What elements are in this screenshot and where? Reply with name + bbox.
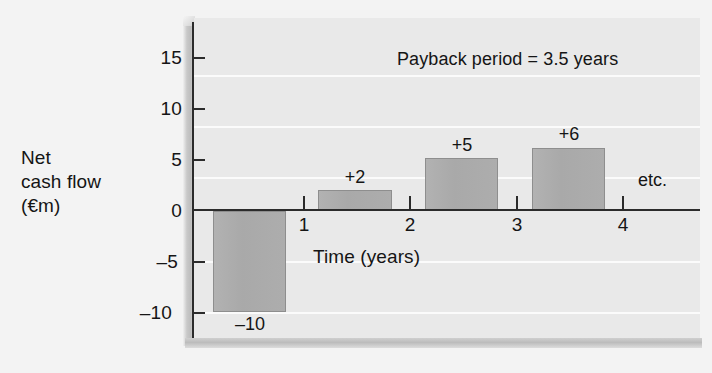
bar-year-4 <box>532 148 605 210</box>
y-tick-minus5 <box>194 261 205 263</box>
x-tick-3 <box>516 196 518 210</box>
x-tick-label-3: 3 <box>502 214 532 236</box>
x-axis-title: Time (years) <box>313 246 420 268</box>
gridline-10 <box>194 126 700 128</box>
bar-year-2 <box>318 190 392 210</box>
x-tick-label-1: 1 <box>289 214 319 236</box>
x-tick-label-2: 2 <box>395 214 425 236</box>
y-tick-label-10: 10 <box>128 98 182 120</box>
bar-label-year-1: –10 <box>220 314 280 335</box>
chart-canvas: Net cash flow (€m) 15 10 5 0 –5 –10 1 2 … <box>0 0 712 373</box>
bar-label-year-4: +6 <box>539 124 599 145</box>
y-tick-10 <box>194 108 205 110</box>
y-tick-label-minus5: –5 <box>124 251 178 273</box>
x-tick-1 <box>303 196 305 210</box>
gridline-15 <box>194 75 700 77</box>
y-tick-label-5: 5 <box>128 149 182 171</box>
y-axis-line <box>192 22 194 338</box>
etc-annotation: etc. <box>638 170 667 191</box>
x-tick-4 <box>622 196 624 210</box>
x-tick-label-4: 4 <box>608 214 638 236</box>
bar-label-year-2: +2 <box>325 167 385 188</box>
y-tick-5 <box>194 159 205 161</box>
payback-period-annotation: Payback period = 3.5 years <box>397 49 618 70</box>
y-tick-label-minus10: –10 <box>118 302 172 324</box>
y-tick-minus10 <box>194 312 205 314</box>
y-tick-label-0: 0 <box>128 200 182 222</box>
plot-frame-bottom-bevel <box>185 338 702 348</box>
bar-year-1-negative <box>213 211 286 312</box>
bar-year-3 <box>425 158 498 210</box>
x-tick-2 <box>409 196 411 210</box>
y-tick-15 <box>194 57 205 59</box>
x-axis-line <box>194 209 700 211</box>
bar-label-year-3: +5 <box>432 135 492 156</box>
y-tick-label-15: 15 <box>128 47 182 69</box>
